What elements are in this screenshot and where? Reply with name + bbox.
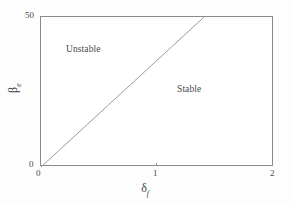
y-axis-title-symbol: β — [6, 87, 20, 93]
y-axis-tick-label-top: 50 — [25, 10, 34, 20]
y-axis-title-subscript: e — [14, 83, 23, 86]
x-axis-tick-label-left: 0 — [36, 168, 41, 178]
region-label-stable: Stable — [177, 84, 201, 94]
x-axis-title-symbol: δ — [141, 181, 147, 195]
region-label-unstable: Unstable — [66, 44, 101, 54]
plot-canvas — [41, 17, 274, 167]
y-axis-tick-label-bottom: 0 — [29, 159, 34, 169]
x-axis-tick-label-right: 2 — [270, 168, 275, 178]
y-axis-title: βe — [6, 68, 22, 108]
x-axis-title: δf — [0, 181, 290, 197]
stability-phase-diagram: 50 0 Unstable Stable 0 1 2 δf βe — [0, 0, 290, 205]
x-axis-tick-mark-mid — [156, 163, 157, 166]
plot-area — [40, 16, 273, 166]
x-axis-tick-label-mid: 1 — [153, 168, 158, 178]
x-axis-title-subscript: f — [147, 189, 149, 198]
